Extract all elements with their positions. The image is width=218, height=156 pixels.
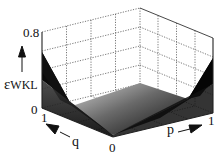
z-axis-label: εWKL [4, 77, 38, 92]
z-axis-label-sub: WKL [10, 78, 37, 92]
surface [42, 52, 213, 137]
q-tick-one: 1 [41, 111, 48, 124]
q-axis-label: q [72, 135, 79, 149]
q-axis-arrow [46, 124, 70, 137]
p-axis-arrow [178, 125, 202, 133]
origin-tick: 0 [109, 141, 116, 154]
z-tick-max: 0.8 [23, 26, 39, 39]
z-axis-arrow [19, 46, 26, 72]
p-tick-one: 1 [208, 114, 215, 127]
p-axis-label: p [167, 123, 174, 137]
z-tick-zero: 0 [31, 103, 38, 116]
